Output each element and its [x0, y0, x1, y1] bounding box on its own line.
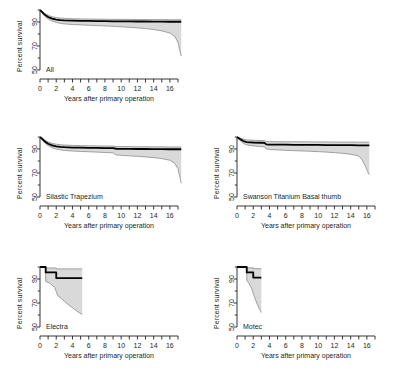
confidence-lower-line: [40, 137, 181, 183]
x-tick-label: 10: [117, 212, 125, 219]
x-tick-label: 4: [71, 212, 75, 219]
x-tick-label: 4: [71, 342, 75, 349]
x-tick-label: 14: [347, 342, 355, 349]
x-tick-label: 16: [166, 85, 174, 92]
x-axis-label: Years after primary operation: [237, 222, 375, 229]
confidence-lower-line: [40, 10, 181, 56]
y-tick-label: 70: [228, 169, 235, 177]
panel-label: Motec: [243, 323, 262, 330]
panel-label: Silastic Trapezium: [46, 193, 103, 200]
y-tick-label: 90: [228, 145, 235, 153]
y-tick-label: 90: [31, 145, 38, 153]
y-tick-label: 90: [31, 18, 38, 26]
x-tick-label: 12: [134, 85, 142, 92]
y-tick-label: 50: [31, 66, 38, 74]
x-tick-label: 2: [54, 212, 58, 219]
x-tick-label: 16: [166, 342, 174, 349]
survival-figure: 5070900246810121416AllPercent survivalYe…: [0, 0, 393, 382]
x-tick-label: 6: [284, 342, 288, 349]
y-axis-label: Percent survival: [213, 278, 220, 329]
y-axis-label: Percent survival: [16, 278, 23, 329]
x-tick-label: 14: [150, 212, 158, 219]
y-axis-label: Percent survival: [16, 148, 23, 199]
y-tick-label: 70: [31, 299, 38, 307]
x-axis-label: Years after primary operation: [40, 222, 178, 229]
x-tick-label: 12: [331, 342, 339, 349]
plot-area-swanson-titanium-basal-thumb: 5070900246810121416: [211, 131, 379, 229]
x-tick-label: 0: [38, 85, 42, 92]
x-axis-label: Years after primary operation: [40, 95, 178, 102]
x-tick-label: 2: [54, 85, 58, 92]
confidence-band: [40, 10, 181, 56]
y-tick-label: 50: [31, 193, 38, 201]
panel-motec: 5070900246810121416MotecPercent survival…: [211, 261, 379, 359]
x-axis-label: Years after primary operation: [237, 352, 375, 359]
y-tick-label: 50: [31, 323, 38, 331]
panel-label: Electra: [46, 323, 68, 330]
x-tick-label: 2: [251, 212, 255, 219]
plot-area-electra: 5070900246810121416: [14, 261, 182, 359]
y-tick-label: 50: [228, 193, 235, 201]
x-tick-label: 4: [71, 85, 75, 92]
x-tick-label: 4: [268, 342, 272, 349]
panel-silastic-trapezium: 5070900246810121416Silastic TrapeziumPer…: [14, 131, 182, 229]
x-tick-label: 2: [54, 342, 58, 349]
x-tick-label: 8: [103, 342, 107, 349]
x-tick-label: 10: [117, 342, 125, 349]
x-tick-label: 6: [87, 85, 91, 92]
x-tick-label: 8: [103, 85, 107, 92]
x-tick-label: 0: [235, 212, 239, 219]
x-tick-label: 8: [300, 212, 304, 219]
x-axis-label: Years after primary operation: [40, 352, 178, 359]
confidence-upper-line: [40, 10, 181, 20]
panel-all: 5070900246810121416AllPercent survivalYe…: [14, 4, 182, 102]
y-tick-label: 90: [31, 275, 38, 283]
x-tick-label: 16: [166, 212, 174, 219]
x-tick-label: 16: [363, 342, 371, 349]
y-tick-label: 50: [228, 323, 235, 331]
x-tick-label: 10: [314, 212, 322, 219]
x-tick-label: 4: [268, 212, 272, 219]
x-tick-label: 0: [38, 342, 42, 349]
panel-label: All: [46, 66, 54, 73]
x-tick-label: 8: [103, 212, 107, 219]
x-tick-label: 0: [235, 342, 239, 349]
x-tick-label: 10: [117, 85, 125, 92]
x-tick-label: 14: [150, 342, 158, 349]
y-tick-label: 70: [31, 169, 38, 177]
x-tick-label: 12: [134, 342, 142, 349]
y-tick-label: 70: [31, 42, 38, 50]
x-tick-label: 6: [87, 212, 91, 219]
y-tick-label: 90: [228, 275, 235, 283]
x-tick-label: 0: [38, 212, 42, 219]
y-tick-label: 70: [228, 299, 235, 307]
x-tick-label: 6: [87, 342, 91, 349]
x-tick-label: 10: [314, 342, 322, 349]
confidence-band: [40, 267, 82, 314]
x-tick-label: 14: [347, 212, 355, 219]
plot-area-motec: 5070900246810121416: [211, 261, 379, 359]
x-tick-label: 16: [363, 212, 371, 219]
plot-area-all: 5070900246810121416: [14, 4, 182, 102]
panel-swanson-titanium-basal-thumb: 5070900246810121416Swanson Titanium Basa…: [211, 131, 379, 229]
panel-label: Swanson Titanium Basal thumb: [243, 193, 341, 200]
x-tick-label: 14: [150, 85, 158, 92]
x-tick-label: 8: [300, 342, 304, 349]
x-tick-label: 12: [134, 212, 142, 219]
x-tick-label: 6: [284, 212, 288, 219]
plot-area-silastic-trapezium: 5070900246810121416: [14, 131, 182, 229]
confidence-band: [40, 137, 181, 183]
y-axis-label: Percent survival: [213, 148, 220, 199]
x-tick-label: 2: [251, 342, 255, 349]
y-axis-label: Percent survival: [16, 21, 23, 72]
panel-electra: 5070900246810121416ElectraPercent surviv…: [14, 261, 182, 359]
x-tick-label: 12: [331, 212, 339, 219]
